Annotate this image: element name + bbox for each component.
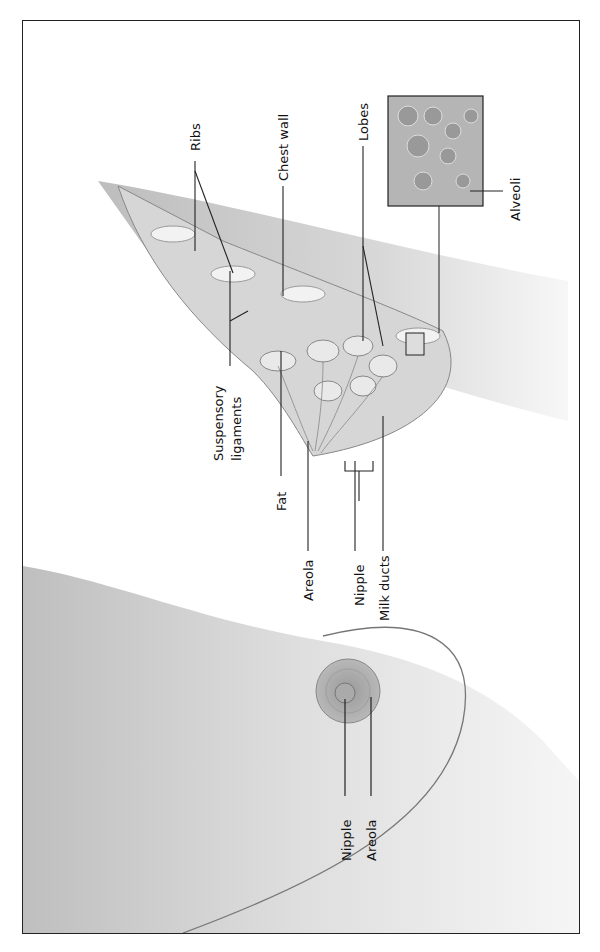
front-nipple-label: Nipple: [339, 820, 354, 861]
front-areola-label: Areola: [364, 820, 379, 861]
ribs-label: Ribs: [188, 123, 203, 151]
alveoli-label: Alveoli: [508, 178, 523, 221]
areola-label: Areola: [301, 560, 316, 601]
suspensory-label-line1: Suspensory: [211, 385, 226, 461]
side-view: Ribs Chest wall Lobes Alveoli Suspensory…: [98, 96, 568, 621]
nipple-label: Nipple: [352, 565, 367, 606]
fat-label: Fat: [274, 492, 289, 511]
milk-ducts-label: Milk ducts: [377, 555, 392, 621]
chest-wall-label: Chest wall: [276, 114, 291, 181]
breast-anatomy-diagram: Nipple Areola: [23, 21, 579, 933]
alveoli-callout-marker: [406, 333, 424, 355]
diagram-frame: Nipple Areola: [22, 20, 580, 934]
torso-shape: [23, 566, 579, 933]
lobes-label: Lobes: [356, 103, 371, 141]
front-view: Nipple Areola: [23, 566, 579, 933]
suspensory-label-line2: ligaments: [229, 397, 244, 461]
